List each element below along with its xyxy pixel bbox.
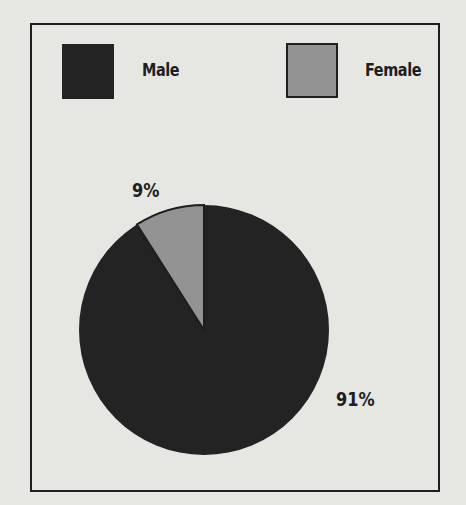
slice-label-female: 9% <box>132 179 159 201</box>
slice-label-male: 91% <box>336 388 375 410</box>
pie-chart <box>0 0 466 505</box>
